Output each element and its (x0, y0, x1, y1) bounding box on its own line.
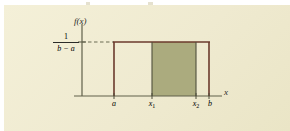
x-axis-label: x (224, 88, 228, 97)
y-axis-tick-label: 1 b − a (52, 32, 80, 53)
plot-canvas (0, 0, 290, 131)
x-tick-label-x2-sub: 2 (196, 103, 199, 109)
y-axis-label: f(x) (74, 17, 87, 26)
x-tick-label-x1-sub: 1 (152, 103, 155, 109)
x-tick-label-a-text: a (112, 99, 116, 108)
fraction-denominator: b − a (52, 43, 80, 53)
x-tick-label-b-text: b (208, 99, 212, 108)
x-tick-label-x1: x1 (149, 99, 156, 108)
fraction-numerator: 1 (52, 32, 80, 42)
x-tick-label-x2: x2 (193, 99, 200, 108)
x-tick-label-b: b (208, 99, 212, 108)
x-tick-label-a: a (112, 99, 116, 108)
figure-root: f(x) x 1 b − a a x1 x2 b (0, 0, 290, 131)
shaded-region (152, 42, 196, 96)
